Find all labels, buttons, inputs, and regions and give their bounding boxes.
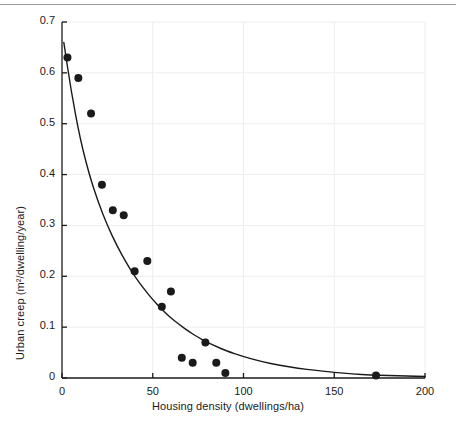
y-tick-label: 0	[49, 370, 55, 382]
y-tick-label: 0.5	[40, 116, 55, 128]
header-rule	[0, 4, 456, 5]
x-tick-label: 150	[304, 385, 364, 397]
y-tick-label: 0.2	[40, 268, 55, 280]
chart-canvas	[0, 0, 456, 427]
gridlines	[62, 22, 425, 378]
y-axis-label: Urban creep (m²/dwelling/year)	[14, 206, 26, 360]
x-tick-label: 200	[395, 385, 455, 397]
x-tick-label: 0	[32, 385, 92, 397]
x-tick-label: 100	[214, 385, 274, 397]
x-tick-label: 50	[123, 385, 183, 397]
y-tick-label: 0.7	[40, 14, 55, 26]
data-points	[63, 54, 380, 380]
y-tick-label: 0.6	[40, 65, 55, 77]
y-tick-label: 0.1	[40, 319, 55, 331]
x-axis-label: Housing density (dwellings/ha)	[0, 400, 456, 412]
y-tick-label: 0.4	[40, 167, 55, 179]
fitted-curve	[64, 42, 425, 376]
urban-creep-scatter-chart: 00.10.20.30.40.50.60.7050100150200 Housi…	[0, 0, 456, 427]
y-tick-label: 0.3	[40, 217, 55, 229]
